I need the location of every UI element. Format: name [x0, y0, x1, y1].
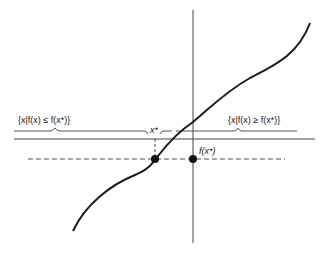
right-set-label: {x|f(x) ≥ f(x*)} [228, 115, 280, 125]
left-set-label: {x|f(x) ≤ f(x*)} [18, 115, 70, 125]
f-x-star-label: f(x*) [199, 146, 216, 156]
x-star-label: x* [150, 125, 158, 135]
right-set-brace [176, 128, 297, 131]
function-curve [73, 23, 310, 231]
point-on-axis [189, 155, 197, 163]
point-on-curve [151, 155, 159, 163]
left-set-brace [14, 128, 148, 134]
x-star-brace-right [160, 131, 172, 134]
diagram-canvas [0, 0, 325, 257]
